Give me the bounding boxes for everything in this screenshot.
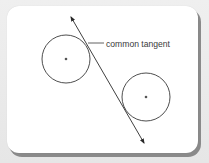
right-circle-center-dot [145,96,148,99]
common-tangent-line [71,17,144,143]
left-circle-center-dot [65,58,68,61]
common-tangent-label: common tangent [106,39,171,49]
diagram-stage: common tangent [0,0,209,163]
tangent-diagram: common tangent [0,0,209,163]
